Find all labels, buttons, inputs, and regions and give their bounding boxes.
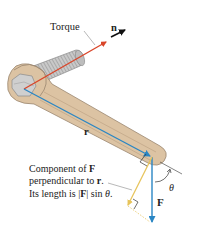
caption-line-3: Its length is |F| sin θ. <box>29 188 112 200</box>
torque-label: Torque <box>50 22 80 33</box>
normal-vector-label: n <box>111 23 117 34</box>
r-vector-label: r <box>84 127 89 138</box>
projection-line <box>128 206 150 222</box>
caption-line-1: Component of F <box>29 163 112 175</box>
theta-label: θ <box>169 183 174 193</box>
f-vector-label: F <box>157 197 164 208</box>
torque-leader-line <box>84 31 95 45</box>
theta-arc <box>155 170 170 182</box>
right-angle-marker-bottom <box>133 199 138 209</box>
perpendicular-component-caption: Component of F perpendicular to r. Its l… <box>29 163 112 200</box>
r-vector <box>24 89 150 156</box>
caption-line-2: perpendicular to r. <box>29 175 112 187</box>
perpendicular-component-vector <box>128 157 152 205</box>
wrench-torque-diagram <box>0 0 198 237</box>
